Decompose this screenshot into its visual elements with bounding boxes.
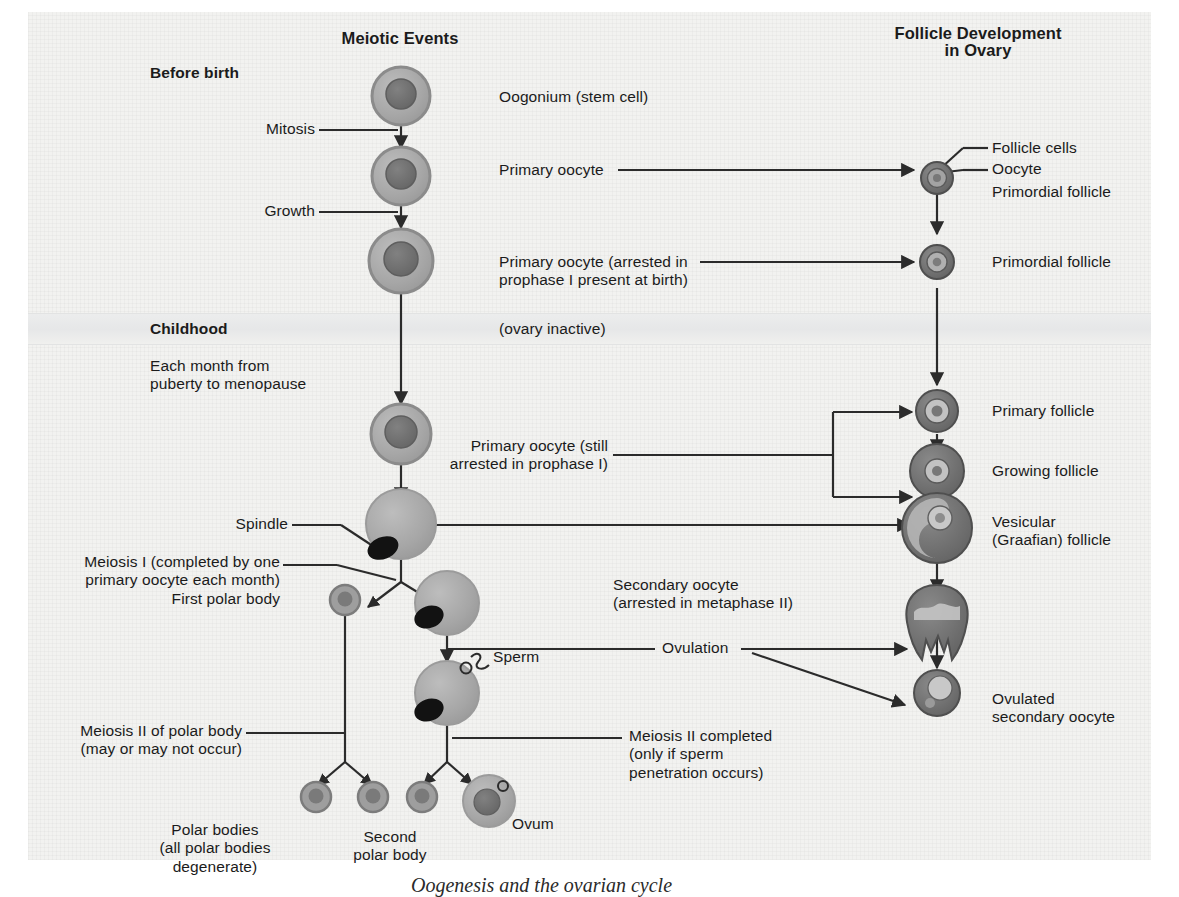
- stage-label-before-birth: Before birth: [150, 64, 239, 82]
- figure-caption: Oogenesis and the ovarian cycle: [411, 874, 672, 897]
- label-mitosis: Mitosis: [200, 120, 315, 138]
- label-growth: Growth: [200, 202, 315, 220]
- label-meiosis-ii-completed: Meiosis II completed (only if sperm pene…: [629, 727, 772, 782]
- label-sperm: Sperm: [493, 648, 539, 666]
- label-polar-bodies: Polar bodies (all polar bodies degenerat…: [120, 821, 310, 876]
- cell-with-spindle: [364, 489, 436, 564]
- label-primary-oocyte: Primary oocyte: [499, 161, 604, 179]
- label-primary-oocyte-still-arrested: Primary oocyte (still arrested in propha…: [383, 437, 608, 474]
- label-vesicular-follicle: Vesicular (Graafian) follicle: [992, 513, 1111, 550]
- label-meiosis-ii-of-polar-body: Meiosis II of polar body (may or may not…: [30, 722, 242, 759]
- label-primordial-follicle-1: Primordial follicle: [992, 183, 1111, 201]
- follicle-growing: [910, 444, 964, 498]
- polar-body: [407, 782, 437, 812]
- label-spindle: Spindle: [170, 515, 288, 533]
- cell-fertilized-oocyte: [411, 661, 479, 725]
- column-title-follicle-development-line2: in Ovary: [858, 41, 1098, 60]
- label-meiosis-i: Meiosis I (completed by one primary oocy…: [30, 553, 280, 590]
- cell-ovum: [463, 775, 515, 827]
- label-second-polar-body: Second polar body: [330, 828, 450, 865]
- follicle-primordial-2: [920, 245, 954, 279]
- cell-secondary-oocyte: [411, 571, 479, 635]
- cell-oogonium: [372, 67, 430, 125]
- stage-label-monthly: Each month from puberty to menopause: [150, 357, 306, 394]
- label-oogonium: Oogonium (stem cell): [499, 88, 648, 106]
- label-secondary-oocyte: Secondary oocyte (arrested in metaphase …: [613, 576, 793, 613]
- follicle-vesicular: [902, 493, 972, 563]
- label-oocyte: Oocyte: [992, 160, 1042, 178]
- label-primordial-follicle-2: Primordial follicle: [992, 253, 1111, 271]
- column-title-meiotic-events: Meiotic Events: [300, 29, 500, 48]
- polar-body: [301, 782, 331, 812]
- label-growing-follicle: Growing follicle: [992, 462, 1099, 480]
- label-ovulation: Ovulation: [662, 639, 728, 657]
- cell-primary-oocyte-2: [369, 229, 433, 293]
- label-ovulated-secondary-oocyte: Ovulated secondary oocyte: [992, 690, 1115, 727]
- polar-body: [358, 782, 388, 812]
- follicle-primordial-1: [921, 162, 953, 194]
- follicle-ovulated-oocyte: [914, 670, 960, 716]
- cell-first-polar-body: [330, 585, 360, 615]
- label-ovum: Ovum: [512, 815, 554, 833]
- follicle-primary: [916, 390, 958, 432]
- polar-bodies-row: [301, 782, 437, 812]
- cell-primary-oocyte-1: [372, 147, 430, 205]
- label-first-polar-body: First polar body: [110, 590, 280, 608]
- label-primary-oocyte-arrested: Primary oocyte (arrested in prophase I p…: [499, 253, 688, 290]
- label-primary-follicle: Primary follicle: [992, 402, 1094, 420]
- stage-label-childhood: Childhood: [150, 320, 228, 338]
- label-follicle-cells: Follicle cells: [992, 139, 1077, 157]
- label-ovary-inactive: (ovary inactive): [499, 320, 606, 338]
